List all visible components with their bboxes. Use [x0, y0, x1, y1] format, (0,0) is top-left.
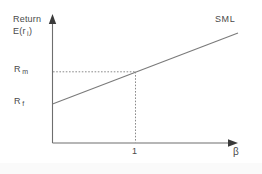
- rf-subscript: f: [21, 100, 25, 107]
- bottom-band: [0, 163, 262, 174]
- sml-chart-figure: Return E(ri) Rm Rf SML 1 β: [0, 0, 262, 174]
- eri-subscript: i: [26, 30, 29, 37]
- eri-close-paren: ): [29, 26, 32, 36]
- rm-main: R: [14, 64, 21, 74]
- eri-main: E(r: [13, 26, 26, 36]
- rf-main: R: [14, 96, 21, 106]
- y-axis-marker-rf: Rf: [14, 96, 24, 107]
- x-axis-label-beta: β: [233, 146, 239, 157]
- x-axis-tick-label-one: 1: [132, 146, 137, 157]
- chart-canvas: [0, 0, 262, 174]
- rm-subscript: m: [21, 68, 29, 75]
- y-axis-marker-rm: Rm: [14, 64, 28, 75]
- y-axis-label-expected-return: E(ri): [13, 26, 32, 37]
- y-axis-arrow-icon: [49, 14, 56, 24]
- sml-line-label: SML: [215, 14, 235, 25]
- sml-line: [53, 33, 239, 104]
- y-axis-label-return: Return: [13, 14, 41, 25]
